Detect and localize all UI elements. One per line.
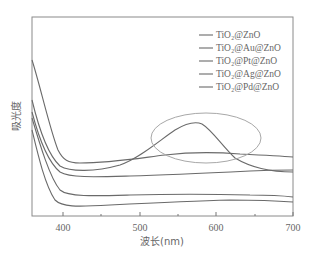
x-tick-label: 700 xyxy=(286,222,301,233)
legend-label: TiO₂@ZnO xyxy=(216,30,261,40)
series-line-tio2-pt-zno xyxy=(32,118,293,197)
legend: TiO₂@ZnO TiO₂@Au@ZnO TiO₂@Pt@ZnO TiO₂@Ag… xyxy=(199,30,281,92)
y-axis-title: 吸光度 xyxy=(10,101,22,131)
legend-item: TiO₂@Pd@ZnO xyxy=(199,82,279,92)
series-line-tio2-pd-zno xyxy=(32,112,293,177)
legend-item: TiO₂@Ag@ZnO xyxy=(199,69,281,79)
legend-item: TiO₂@Pt@ZnO xyxy=(199,56,277,66)
legend-label: TiO₂@Au@ZnO xyxy=(216,43,281,53)
legend-label: TiO₂@Ag@ZnO xyxy=(216,69,281,79)
uv-vis-absorbance-chart: 400 500 600 700 波长(nm) 吸光度 TiO₂@ZnO TiO₂… xyxy=(0,0,313,258)
x-axis-title: 波长(nm) xyxy=(140,235,184,247)
legend-item: TiO₂@ZnO xyxy=(199,30,261,40)
x-axis-ticks xyxy=(63,212,293,216)
x-tick-label: 400 xyxy=(56,222,71,233)
peak-highlight-ellipse xyxy=(151,113,261,163)
x-tick-label: 600 xyxy=(209,222,224,233)
legend-label: TiO₂@Pd@ZnO xyxy=(216,82,279,92)
x-tick-label: 500 xyxy=(133,222,148,233)
legend-item: TiO₂@Au@ZnO xyxy=(199,43,281,53)
legend-label: TiO₂@Pt@ZnO xyxy=(216,56,277,66)
series-line-tio2-ag-zno xyxy=(32,100,293,172)
